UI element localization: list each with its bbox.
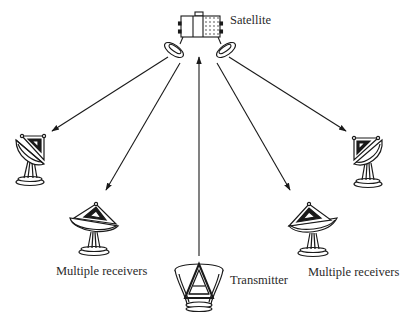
transmitter-label: Transmitter (230, 274, 288, 287)
receiver-dish-icon-far-left (16, 134, 46, 185)
diagram-canvas: Satellite Multiple receivers Transmitter… (0, 0, 402, 320)
downlink-arrow-mid-right (217, 63, 290, 190)
receivers-right-label: Multiple receivers (308, 266, 399, 279)
transmitter-dish-icon (175, 264, 223, 312)
satellite-icon (162, 12, 238, 60)
receiver-dish-icon-far-right (352, 136, 382, 187)
receiver-dish-icon-mid-left (70, 202, 118, 255)
satellite-label: Satellite (230, 14, 271, 27)
downlink-arrow-far-left (52, 57, 168, 131)
receiver-dish-icon-mid-right (289, 202, 337, 256)
downlink-arrow-far-right (229, 57, 346, 131)
downlink-arrow-mid-left (106, 63, 180, 190)
receivers-left-label: Multiple receivers (56, 265, 147, 278)
